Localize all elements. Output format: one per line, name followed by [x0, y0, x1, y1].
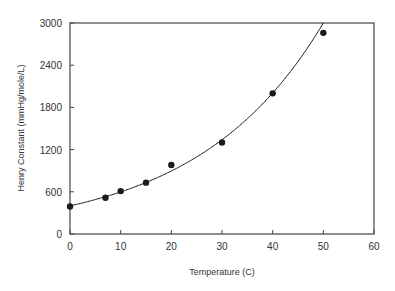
data-point	[219, 139, 225, 145]
x-tick-label: 60	[368, 241, 380, 252]
y-tick-label: 0	[56, 229, 62, 240]
data-points	[67, 30, 327, 210]
x-tick-label: 40	[267, 241, 279, 252]
data-point	[67, 203, 73, 209]
y-tick-label: 600	[45, 187, 62, 198]
y-tick-label: 2400	[40, 60, 63, 71]
x-tick-label: 10	[115, 241, 127, 252]
y-tick-label: 3000	[40, 18, 63, 29]
data-point	[168, 162, 174, 168]
x-tick-label: 20	[166, 241, 178, 252]
x-axis-label: Temperature (C)	[189, 267, 255, 277]
data-point	[269, 90, 275, 96]
x-tick-label: 50	[318, 241, 330, 252]
data-point	[143, 179, 149, 185]
data-point	[117, 188, 123, 194]
x-axis-ticks: 0102030405060	[67, 230, 380, 252]
y-tick-label: 1200	[40, 145, 63, 156]
data-point	[320, 30, 326, 36]
x-tick-label: 30	[216, 241, 228, 252]
data-point	[102, 195, 108, 201]
y-axis-label: Henry Constant (mmHg/mole/L)	[16, 64, 26, 191]
y-tick-label: 1800	[40, 102, 63, 113]
chart: 06001200180024003000 0102030405060 Tempe…	[0, 0, 395, 291]
plot-border	[70, 23, 374, 234]
fit-curve	[70, 23, 323, 206]
plot-frame	[70, 23, 374, 234]
x-tick-label: 0	[67, 241, 73, 252]
